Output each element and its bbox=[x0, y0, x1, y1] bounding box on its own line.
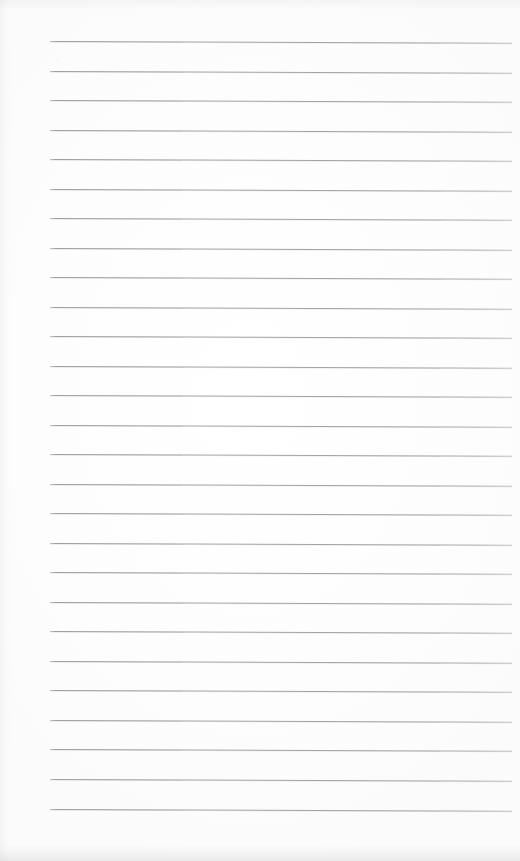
lined-paper-page bbox=[0, 0, 520, 861]
writing-area[interactable] bbox=[50, 41, 513, 810]
